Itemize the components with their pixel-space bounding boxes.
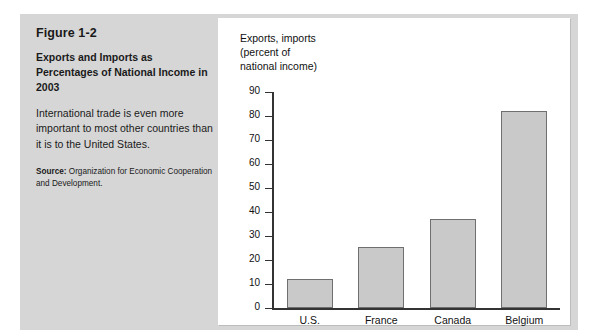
y-tick-20: 20 — [265, 260, 272, 261]
y-tick-label: 20 — [249, 253, 265, 264]
x-axis-label-canada: Canada — [417, 314, 489, 326]
bar-belgium — [501, 111, 547, 308]
y-tick-80: 80 — [265, 116, 272, 117]
y-tick-10: 10 — [265, 284, 272, 285]
plot-area: 0102030405060708090 U.S.FranceCanadaBelg… — [218, 18, 570, 325]
y-tick-60: 60 — [265, 164, 272, 165]
caption-column: Figure 1-2 Exports and Imports as Percen… — [36, 26, 216, 189]
y-tick-0: 0 — [265, 308, 272, 309]
y-tick-label: 10 — [249, 277, 265, 288]
figure-source: Source: Organization for Economic Cooper… — [36, 166, 216, 189]
y-tick-90: 90 — [265, 92, 272, 93]
figure-panel: Figure 1-2 Exports and Imports as Percen… — [20, 14, 578, 330]
y-tick-label: 60 — [249, 157, 265, 168]
bar-u-s — [287, 279, 333, 308]
x-axis-label-u-s: U.S. — [274, 314, 346, 326]
y-tick-label: 40 — [249, 205, 265, 216]
x-axis-label-belgium: Belgium — [489, 314, 561, 326]
y-tick-label: 50 — [249, 181, 265, 192]
y-tick-70: 70 — [265, 140, 272, 141]
y-tick-50: 50 — [265, 188, 272, 189]
bar-canada — [430, 219, 476, 308]
x-axis-label-france: France — [346, 314, 418, 326]
y-tick-label: 70 — [249, 133, 265, 144]
bar-france — [358, 247, 404, 308]
y-axis-line — [272, 92, 274, 309]
y-tick-label: 80 — [249, 109, 265, 120]
y-tick-label: 0 — [254, 301, 265, 312]
y-tick-40: 40 — [265, 212, 272, 213]
figure-number: Figure 1-2 — [36, 26, 216, 40]
figure-description: International trade is even more importa… — [36, 106, 216, 153]
y-tick-label: 30 — [249, 229, 265, 240]
y-tick-label: 90 — [249, 85, 265, 96]
chart-panel: Exports, imports (percent of national in… — [218, 18, 570, 325]
figure-title: Exports and Imports as Percentages of Na… — [36, 50, 216, 96]
x-axis-line — [272, 308, 560, 310]
y-tick-30: 30 — [265, 236, 272, 237]
source-label: Source: — [36, 167, 66, 176]
